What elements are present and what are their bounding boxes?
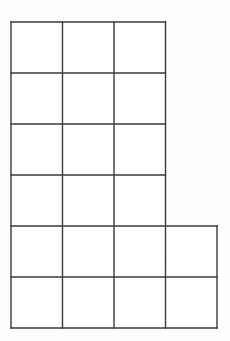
grid-cell <box>166 226 218 277</box>
grid-cell <box>11 73 63 124</box>
grid-cell <box>63 22 115 73</box>
grid-cell <box>11 277 63 328</box>
grid-cell <box>11 175 63 226</box>
grid-figure <box>0 0 230 341</box>
grid-cell <box>11 22 63 73</box>
grid-cell <box>63 175 115 226</box>
grid-cell <box>114 22 166 73</box>
grid-cell <box>63 277 115 328</box>
grid-cell <box>63 124 115 175</box>
grid-cell <box>166 277 218 328</box>
grid-cell <box>11 124 63 175</box>
grid-cell <box>114 226 166 277</box>
figure-canvas: ·· · –– –– – <box>0 0 230 341</box>
grid-cell <box>114 175 166 226</box>
grid-cell <box>114 277 166 328</box>
grid-cell <box>63 73 115 124</box>
grid-cell <box>63 226 115 277</box>
grid-cell <box>114 124 166 175</box>
grid-cell <box>11 226 63 277</box>
grid-cell <box>114 73 166 124</box>
